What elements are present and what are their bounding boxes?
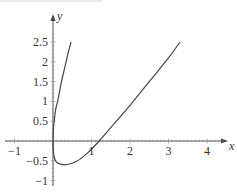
y-tick-label: 2.5 xyxy=(33,35,48,49)
x-tick-label: −1 xyxy=(8,144,21,158)
y-tick-label: 0.5 xyxy=(33,114,48,128)
y-tick-label: 1 xyxy=(42,94,48,108)
x-axis-arrow-icon xyxy=(221,139,228,144)
x-tick-label: 1 xyxy=(89,144,95,158)
curve-upper-branch xyxy=(53,42,71,141)
y-tick-label: 1.5 xyxy=(33,75,48,89)
y-tick-label: −0.5 xyxy=(26,154,48,168)
y-axis-label: y xyxy=(56,9,63,23)
y-tick-label: 2 xyxy=(42,55,48,69)
y-axis-arrow-icon xyxy=(51,14,56,21)
tick-labels: −112342.521.510.5−0.5−1xy xyxy=(8,9,235,188)
curve-lower-branch xyxy=(53,42,180,165)
curves xyxy=(53,42,180,165)
chart-plot: −112342.521.510.5−0.5−1xy xyxy=(0,0,237,192)
x-axis-label: x xyxy=(228,139,235,153)
y-tick-label: −1 xyxy=(35,174,48,188)
x-tick-label: 4 xyxy=(204,144,210,158)
x-tick-label: 2 xyxy=(127,144,133,158)
x-tick-label: 3 xyxy=(166,144,172,158)
